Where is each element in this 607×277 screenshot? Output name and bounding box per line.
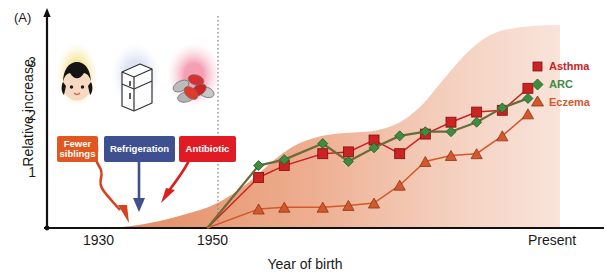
legend-label-eczema: Eczema — [549, 96, 590, 108]
data-point — [343, 147, 353, 157]
legend-label-arc: ARC — [549, 78, 573, 90]
callout-box-antibiotic[interactable]: Antibiotic — [179, 136, 236, 162]
legend-label-asthma: Asthma — [549, 60, 589, 72]
data-point — [395, 149, 405, 159]
callout-box-refrigeration[interactable]: Refrigeration — [104, 136, 175, 162]
data-point — [523, 83, 533, 93]
callout-box-fewer-siblings[interactable]: Fewer siblings — [57, 136, 98, 162]
data-point — [254, 172, 264, 182]
data-point — [318, 149, 328, 159]
data-point — [446, 117, 456, 127]
axis-origin-dot — [45, 226, 50, 231]
legend-marker-asthma — [533, 62, 542, 71]
refrigerator-icon — [122, 64, 152, 111]
y-axis-arrowhead — [43, 8, 50, 17]
figure-panel-a: (A) Relative increase Year of birth 3 2 … — [0, 0, 607, 277]
data-point — [472, 107, 482, 117]
